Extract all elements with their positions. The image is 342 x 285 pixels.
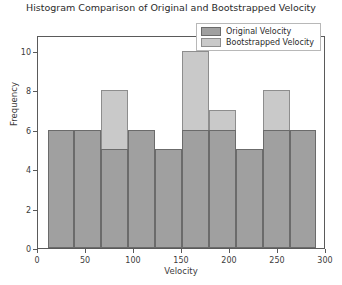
legend-item-original: Original Velocity	[201, 27, 314, 36]
histogram-bar	[74, 130, 101, 248]
histogram-bar	[128, 130, 155, 248]
y-axis-tick-label: 2	[26, 205, 31, 214]
x-axis-tick-mark	[37, 249, 38, 253]
x-axis-tick-label: 300	[317, 256, 332, 265]
histogram-bar	[182, 130, 209, 248]
legend-label-bootstrapped: Bootstrapped Velocity	[226, 38, 314, 47]
legend-swatch-bootstrapped-icon	[201, 38, 221, 47]
x-axis-tick-mark	[85, 249, 86, 253]
histogram-bar	[155, 149, 182, 248]
histogram-bar	[290, 130, 317, 248]
y-axis-tick-label: 6	[26, 126, 31, 135]
x-axis-tick-mark	[325, 249, 326, 253]
x-axis-label: Velocity	[37, 266, 325, 276]
x-axis-tick-label: 50	[80, 256, 90, 265]
y-axis-tick-label: 10	[21, 47, 31, 56]
x-axis-tick-label: 0	[34, 256, 39, 265]
x-axis-tick-label: 150	[173, 256, 188, 265]
x-axis-tick-label: 100	[125, 256, 140, 265]
y-axis-tick-label: 8	[26, 87, 31, 96]
histogram-bar	[236, 149, 263, 248]
y-axis-tick-label: 4	[26, 166, 31, 175]
chart-figure: Histogram Comparison of Original and Boo…	[0, 0, 342, 285]
histogram-bar	[209, 130, 236, 248]
y-axis-label: Frequency	[9, 44, 19, 164]
x-axis-tick-mark	[133, 249, 134, 253]
x-axis-tick-mark	[181, 249, 182, 253]
histogram-bar	[48, 130, 75, 248]
x-axis-tick-mark	[229, 249, 230, 253]
legend-label-original: Original Velocity	[226, 27, 291, 36]
y-axis-tick-label: 0	[26, 245, 31, 254]
plot-area	[37, 36, 325, 249]
histogram-bar	[101, 149, 128, 248]
chart-title: Histogram Comparison of Original and Boo…	[0, 2, 342, 13]
legend-item-bootstrapped: Bootstrapped Velocity	[201, 38, 314, 47]
chart-legend: Original Velocity Bootstrapped Velocity	[196, 23, 321, 51]
legend-swatch-original-icon	[201, 27, 221, 36]
x-axis-tick-label: 200	[221, 256, 236, 265]
x-axis-tick-label: 250	[269, 256, 284, 265]
x-axis-tick-mark	[277, 249, 278, 253]
bars-layer	[38, 37, 324, 248]
histogram-bar	[263, 130, 290, 248]
